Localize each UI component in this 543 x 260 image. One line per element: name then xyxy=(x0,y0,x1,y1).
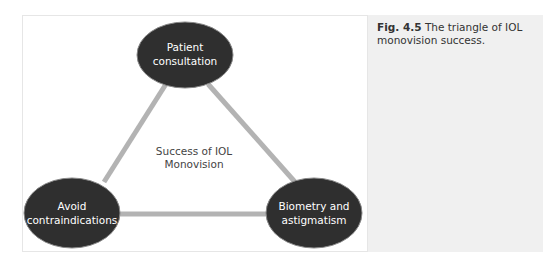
node-patient-consultation: Patient consultation xyxy=(137,22,233,88)
node-label-line2: astigmatism xyxy=(282,214,347,226)
node-label-line2: contraindications xyxy=(27,214,118,226)
figure-number: Fig. 4.5 xyxy=(377,21,422,33)
edge-top-left xyxy=(104,84,166,182)
node-label-line1: Biometry and xyxy=(279,200,350,212)
node-label-line1: Patient xyxy=(167,41,204,53)
node-label-line2: consultation xyxy=(153,55,218,67)
node-avoid-contraindications: Avoid contraindications xyxy=(24,178,120,248)
node-label-line1: Avoid xyxy=(58,200,87,212)
caption-panel: Fig. 4.5 The triangle of IOL monovision … xyxy=(368,15,543,252)
node-biometry-astigmatism: Biometry and astigmatism xyxy=(266,178,362,248)
center-label-line2: Monovision xyxy=(164,158,223,170)
center-label-line1: Success of IOL xyxy=(156,145,232,157)
